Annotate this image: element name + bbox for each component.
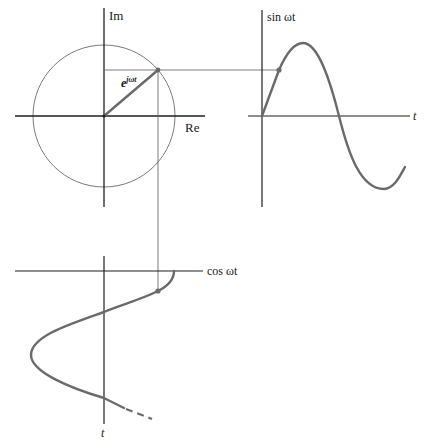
- sine-t-axis-label: t: [413, 109, 417, 123]
- origin-dot: [102, 114, 105, 117]
- phasor-label: ejωt: [121, 75, 137, 90]
- cosine-curve-continuation: [126, 409, 152, 419]
- complex-plane: [15, 8, 279, 291]
- phasor-tip-dot: [156, 68, 161, 73]
- cosine-value-axis-label: cos ωt: [207, 264, 238, 278]
- sine-value-axis-label: sin ωt: [267, 10, 296, 24]
- phasor-label-exponent: jωt: [124, 75, 137, 84]
- cosine-plot: [15, 256, 203, 424]
- phasor-diagram: Im Re ejωt sin ωt t cos ωt t: [0, 0, 430, 448]
- cosine-projection-dot: [155, 288, 160, 293]
- sine-projection-dot: [276, 67, 281, 72]
- cosine-curve: [31, 271, 174, 408]
- imag-axis-label: Im: [109, 8, 123, 23]
- real-axis-label: Re: [185, 120, 200, 135]
- sine-plot: [248, 10, 410, 207]
- cosine-t-axis-label: t: [101, 426, 105, 440]
